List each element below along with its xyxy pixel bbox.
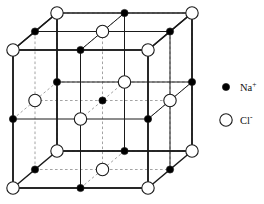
sodium-ion-node — [166, 166, 173, 173]
legend-chloride-marker-icon — [220, 114, 232, 126]
chloride-ion-node — [29, 94, 41, 106]
legend-sodium-marker-icon — [222, 83, 229, 90]
sodium-ion-node — [53, 78, 60, 85]
chloride-ion-node — [7, 182, 19, 194]
legend-charge-superscript: + — [252, 80, 256, 89]
sodium-ion-node — [166, 28, 173, 35]
chloride-ion-node — [118, 76, 130, 88]
chloride-ion-node — [96, 163, 108, 175]
legend-charge-superscript: - — [250, 113, 253, 122]
sodium-ion-node — [121, 9, 128, 16]
sodium-ion-node — [144, 115, 151, 122]
sodium-ion-node — [188, 78, 195, 85]
sodium-ion-node — [77, 46, 84, 53]
sodium-ion-node — [121, 147, 128, 154]
nacl-lattice-figure: Na+Cl- — [0, 0, 264, 204]
legend-label-sodium: Na+ — [240, 80, 256, 93]
chloride-ion-node — [51, 7, 63, 19]
chloride-ion-node — [186, 145, 198, 157]
legend-label-chloride: Cl- — [240, 113, 253, 126]
chloride-ion-node — [142, 182, 154, 194]
chloride-ion-node — [7, 44, 19, 56]
sodium-ion-node — [31, 28, 38, 35]
chloride-ion-node — [186, 7, 198, 19]
sodium-ion-node — [77, 184, 84, 191]
legend: Na+Cl- — [220, 80, 257, 126]
chloride-ion-node — [142, 44, 154, 56]
chloride-ion-node — [74, 113, 86, 125]
sodium-ion-node — [9, 115, 16, 122]
sodium-ion-node — [99, 97, 106, 104]
ion-nodes — [7, 7, 198, 194]
chloride-ion-node — [96, 25, 108, 37]
chloride-ion-node — [51, 145, 63, 157]
sodium-ion-node — [31, 166, 38, 173]
crystal-lattice-diagram: Na+Cl- — [0, 0, 264, 204]
chloride-ion-node — [164, 94, 176, 106]
